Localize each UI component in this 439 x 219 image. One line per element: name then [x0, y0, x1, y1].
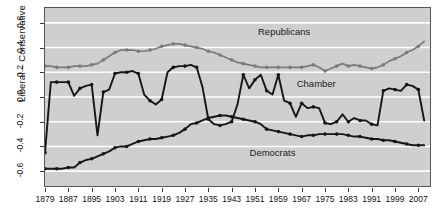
data-point: [347, 64, 351, 68]
data-point: [405, 51, 409, 55]
x-tick-mark: [138, 188, 139, 192]
data-point: [323, 121, 327, 125]
x-tick-label: 2007: [403, 194, 433, 204]
x-tick-mark: [325, 188, 326, 192]
data-point: [347, 134, 351, 138]
data-point: [45, 151, 47, 155]
data-point: [277, 73, 281, 77]
data-point: [148, 48, 152, 52]
data-point: [358, 64, 362, 68]
series-label-republicans: Republicans: [258, 26, 310, 37]
data-point: [55, 66, 59, 70]
data-point: [148, 137, 152, 141]
series-label-democrats: Democrats: [250, 147, 296, 158]
x-tick-mark: [278, 188, 279, 192]
data-point: [148, 99, 152, 103]
x-tick-mark: [372, 188, 373, 192]
data-point: [312, 63, 316, 67]
data-point: [90, 83, 94, 87]
data-point: [288, 132, 292, 136]
data-point: [90, 63, 94, 67]
data-point: [67, 66, 71, 70]
data-point: [382, 89, 386, 93]
data-point: [218, 124, 222, 128]
series-line: [45, 116, 424, 169]
data-point: [242, 117, 246, 121]
data-point: [160, 98, 164, 102]
data-point: [312, 105, 316, 109]
x-tick-mark: [302, 188, 303, 192]
data-point: [242, 62, 246, 66]
data-point: [137, 72, 141, 76]
series-republicans: [45, 41, 424, 72]
data-point: [300, 101, 304, 105]
data-point: [55, 80, 59, 84]
data-point: [160, 136, 164, 140]
x-tick-mark: [185, 188, 186, 192]
data-point: [323, 69, 327, 73]
data-point: [382, 63, 386, 67]
data-point: [358, 119, 362, 123]
data-point: [370, 122, 374, 126]
x-tick-mark: [255, 188, 256, 192]
x-tick-mark: [162, 188, 163, 192]
y-tick-label: -0.2: [15, 109, 25, 133]
y-tick-label: 0.6: [15, 10, 25, 34]
data-point: [370, 67, 374, 71]
series-line: [45, 65, 424, 153]
data-point: [207, 117, 211, 121]
data-point: [253, 64, 257, 68]
data-point: [102, 58, 106, 62]
data-point: [312, 134, 316, 138]
data-point: [113, 72, 117, 76]
plot-area: [44, 7, 431, 187]
data-point: [183, 127, 187, 131]
data-point: [45, 167, 47, 171]
y-tick-label: -0.6: [15, 158, 25, 182]
data-point: [370, 137, 374, 141]
y-tick-label: 0.0: [15, 84, 25, 108]
chart-figure: Liberal – Conservative -0.6-0.4-0.20.00.…: [0, 0, 439, 219]
data-point: [288, 101, 292, 105]
data-point: [45, 64, 47, 68]
data-point: [137, 140, 141, 144]
data-point: [242, 73, 246, 77]
data-point: [183, 64, 187, 68]
data-point: [265, 89, 269, 93]
data-point: [335, 64, 339, 68]
data-point: [172, 66, 176, 70]
y-tick-label: -0.4: [15, 133, 25, 157]
y-tick-label: 0.4: [15, 35, 25, 59]
data-point: [102, 152, 106, 156]
x-tick-mark: [418, 188, 419, 192]
data-point: [55, 167, 59, 171]
data-point: [300, 66, 304, 70]
data-point: [335, 132, 339, 136]
data-point: [335, 120, 339, 124]
data-point: [195, 46, 199, 50]
data-point: [347, 120, 351, 124]
data-point: [393, 57, 397, 61]
x-tick-mark: [92, 188, 93, 192]
data-point: [195, 66, 199, 70]
data-point: [183, 43, 187, 47]
data-point: [137, 49, 141, 53]
data-point: [78, 87, 82, 91]
data-point: [253, 78, 257, 82]
data-point: [265, 127, 269, 131]
data-point: [218, 53, 222, 57]
data-point: [78, 64, 82, 68]
data-point: [265, 66, 269, 70]
data-point: [125, 145, 129, 149]
data-point: [230, 58, 234, 62]
data-point: [102, 90, 106, 94]
data-point: [405, 142, 409, 146]
data-point: [417, 88, 421, 92]
data-point: [172, 42, 176, 46]
data-point: [405, 83, 409, 87]
y-tick-label: 0.2: [15, 59, 25, 83]
data-point: [90, 157, 94, 161]
data-point: [230, 120, 234, 124]
data-point: [207, 49, 211, 53]
data-point: [393, 88, 397, 92]
